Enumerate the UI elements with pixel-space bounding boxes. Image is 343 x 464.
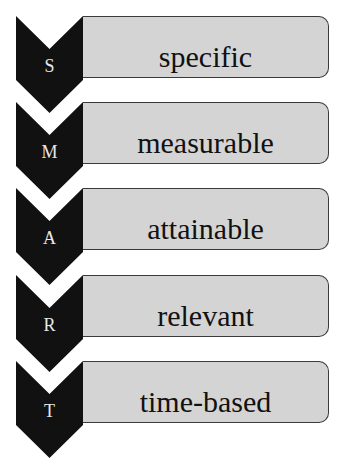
goal-letter: M (16, 142, 83, 163)
goal-label: specific (83, 40, 328, 74)
smart-item-specific: specific S (0, 16, 343, 116)
goal-label: time-based (83, 385, 328, 419)
goal-label: measurable (83, 126, 328, 160)
smart-item-measurable: measurable M (0, 102, 343, 202)
goal-letter: S (16, 56, 83, 77)
goal-box: specific (83, 16, 329, 78)
smart-item-relevant: relevant R (0, 275, 343, 375)
goal-label: attainable (83, 212, 328, 246)
goal-label: relevant (83, 299, 328, 333)
goal-box: measurable (83, 102, 329, 164)
smart-item-time-based: time-based T (0, 361, 343, 461)
goal-box: relevant (83, 275, 329, 337)
goal-box: attainable (83, 188, 329, 250)
goal-letter: A (16, 228, 83, 249)
smart-item-attainable: attainable A (0, 188, 343, 288)
goal-letter: T (16, 401, 83, 422)
goal-letter: R (16, 315, 83, 336)
goal-box: time-based (83, 361, 329, 423)
